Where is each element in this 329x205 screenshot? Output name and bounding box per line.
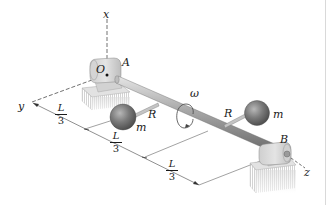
- dimension-numerator: L: [165, 159, 179, 170]
- dimension-denominator: 3: [165, 171, 179, 182]
- x-axis-label: x: [103, 9, 109, 20]
- bearing-b-support: [250, 142, 296, 193]
- mass-left-label: m: [136, 122, 146, 133]
- arm-right-label: R: [224, 108, 232, 119]
- right-mass-ball: [245, 101, 270, 126]
- dimension-label-3: L 3: [165, 159, 179, 182]
- dimension-numerator: L: [109, 131, 123, 142]
- dimension-label-1: L 3: [54, 103, 68, 126]
- origin-dot: [106, 74, 109, 77]
- dimension-label-2: L 3: [109, 131, 123, 154]
- y-axis-label: y: [18, 101, 24, 112]
- bearing-a-label: A: [122, 57, 130, 68]
- dimension-numerator: L: [54, 103, 68, 114]
- mass-right-label: m: [273, 109, 283, 120]
- dimension-denominator: 3: [54, 115, 68, 126]
- z-axis-label: z: [304, 167, 310, 178]
- dimension-arrow-end: [193, 181, 199, 185]
- origin-label: O: [96, 64, 105, 75]
- dimension-tick-1: [84, 129, 89, 130]
- omega-label: ω: [190, 88, 199, 99]
- dimension-arrow-start: [33, 103, 39, 107]
- bearing-b-label: B: [280, 134, 288, 145]
- extension-line-right-mass: [145, 131, 208, 157]
- shaft-diagram: x y z O A B ω R R m m L 3 L 3 L 3: [0, 0, 329, 205]
- dimension-tick-2: [142, 157, 147, 158]
- left-mass-ball: [110, 104, 136, 130]
- arm-left-label: R: [148, 109, 156, 120]
- right-border: [325, 0, 326, 205]
- dimension-denominator: 3: [109, 143, 123, 154]
- extension-line-left-mass: [85, 121, 110, 129]
